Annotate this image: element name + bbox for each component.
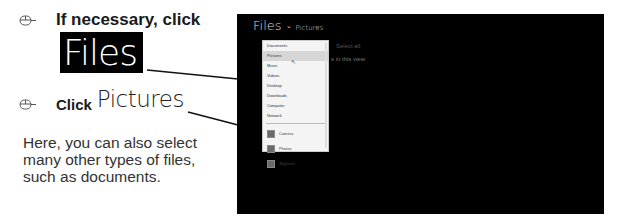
dropdown-scrollbar[interactable] — [325, 43, 327, 148]
dropdown-item-network[interactable]: Network — [263, 111, 328, 121]
library-label: Camera — [279, 131, 293, 136]
library-label: Photos — [279, 146, 291, 151]
skydrive-icon — [267, 160, 275, 168]
dropdown-library-camera[interactable]: Camera — [263, 126, 328, 141]
dropdown-item-desktop[interactable]: Desktop — [263, 81, 328, 91]
step-1-label: If necessary, click — [56, 10, 200, 30]
tip-note: Here, you can also select many other typ… — [23, 134, 223, 185]
mouse-cursor-icon: ↖ — [291, 58, 296, 65]
photos-icon — [267, 145, 275, 153]
step-2: Click Pictures — [19, 86, 184, 112]
pictures-callout: Pictures — [97, 86, 184, 112]
dropdown-divider — [266, 123, 325, 124]
dropdown-item-computer[interactable]: Computer — [263, 101, 328, 111]
dropdown-library-skydrive[interactable]: SkyDrive — [263, 156, 328, 171]
dropdown-item-documents[interactable]: Documents — [263, 41, 328, 51]
library-label: SkyDrive — [279, 161, 295, 166]
current-folder: Pictures — [296, 24, 324, 32]
step-2-label: Click — [56, 96, 92, 113]
mouse-click-icon — [19, 15, 37, 26]
dropdown-item-videos[interactable]: Videos — [263, 71, 328, 81]
app-screenshot: Files⌄Pictures Select all s in this view… — [237, 14, 604, 214]
location-dropdown[interactable]: Documents Pictures Music Videos Desktop … — [262, 40, 329, 152]
select-all-button[interactable]: Select all — [336, 43, 360, 49]
location-header[interactable]: Files⌄Pictures — [253, 18, 323, 33]
files-title[interactable]: Files — [253, 18, 282, 33]
mouse-click-icon — [19, 99, 37, 110]
empty-view-text: s in this view — [331, 56, 365, 62]
step-1: If necessary, click — [19, 10, 200, 30]
chevron-down-icon[interactable]: ⌄ — [286, 22, 292, 30]
dropdown-library-photos[interactable]: Photos — [263, 141, 328, 156]
dropdown-item-downloads[interactable]: Downloads — [263, 91, 328, 101]
camera-roll-icon — [267, 130, 275, 138]
files-callout: Files — [60, 32, 143, 73]
